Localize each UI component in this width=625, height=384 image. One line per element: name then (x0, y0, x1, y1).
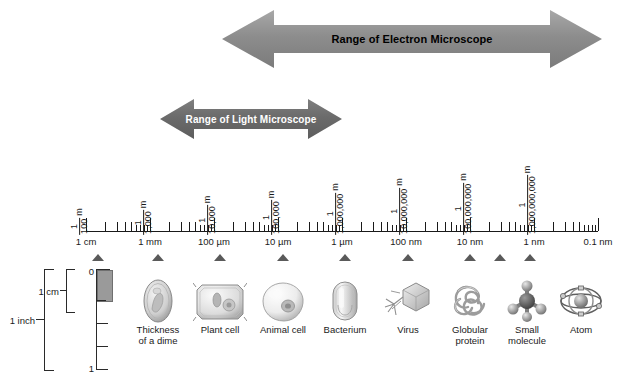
scale-minor-tick (451, 222, 452, 231)
fraction-numerator: 1 (326, 210, 335, 217)
scale-minor-tick (381, 222, 382, 231)
scale-minor-tick (323, 222, 324, 231)
scale-minor-tick (245, 222, 246, 231)
fraction-unit: m (330, 183, 340, 191)
scale-minor-tick (125, 222, 126, 231)
scale-minor-tick (105, 222, 106, 231)
scale-minor-tick (181, 222, 182, 231)
scale-minor-tick (565, 222, 566, 231)
specimen-plant-cell-label: Plant cell (188, 325, 252, 336)
specimen-position-marker (524, 254, 536, 261)
specimen-small-molecule-label: Small molecule (500, 325, 554, 346)
scale-minor-tick (189, 222, 190, 231)
fraction-numerator: 1 (262, 214, 271, 221)
fraction-numerator: 1 (70, 223, 79, 230)
scale-unit-label: 100 nm (390, 236, 422, 247)
scale-unit-label: 10 µm (265, 236, 292, 247)
specimen-virus-label: Virus (377, 325, 439, 336)
scale-minor-tick (373, 222, 374, 231)
scale-fraction-label: 11,000,000m (326, 183, 346, 235)
cm-bracket (66, 269, 75, 313)
scale-fraction-label: 11,000,000,000m (518, 166, 538, 235)
ruler-tick (96, 346, 108, 347)
scale-minor-tick (317, 222, 318, 231)
scale-minor-tick (489, 222, 490, 231)
range-arrow-light-label: Range of Light Microscope (160, 97, 342, 141)
fraction-unit: m (458, 173, 468, 181)
scale-minor-tick (195, 222, 196, 231)
specimen-position-marker (92, 254, 104, 261)
specimen-plant-cell: Plant cell (188, 277, 252, 336)
scale-minor-tick (425, 222, 426, 231)
scale-minor-tick (595, 225, 596, 231)
size-scale-diagram: Range of Electron Microscope Range of Li… (0, 0, 625, 384)
specimen-dime-label: Thickness of a dime (127, 325, 189, 346)
specimen-position-marker (277, 254, 289, 261)
scale-fraction-label: 11,000m (134, 201, 154, 235)
fraction-denominator: 1,000,000,000 (528, 175, 538, 235)
fraction-unit: m (202, 196, 212, 204)
scale-unit-label: 100 µm (198, 236, 230, 247)
scale-minor-tick (437, 222, 438, 231)
virus-illustration (377, 277, 439, 323)
specimen-position-marker (214, 254, 226, 261)
scale-minor-tick (117, 222, 118, 231)
scale-minor-tick (584, 225, 585, 231)
ruler-tick (96, 369, 108, 370)
globular-protein-illustration (442, 277, 498, 323)
bacterium-illustration (313, 277, 377, 323)
fraction-unit: m (74, 208, 84, 216)
scale-major-tick (598, 218, 599, 231)
scale-minor-tick (297, 222, 298, 231)
atom-illustration (554, 277, 608, 323)
range-arrow-electron: Range of Electron Microscope (222, 8, 602, 70)
fraction-denominator: 1,000,000 (336, 193, 346, 235)
specimen-position-marker (402, 254, 414, 261)
scale-minor-tick (253, 222, 254, 231)
scale-minor-tick (233, 222, 234, 231)
inch-bracket-label: 1 inch (10, 315, 35, 326)
scale-minor-tick (131, 222, 132, 231)
scale-unit-label: 1 mm (138, 236, 162, 247)
scale-fraction-label: 110,000,000m (390, 178, 410, 235)
fraction-denominator: 100 (80, 218, 90, 235)
fraction-unit: m (394, 178, 404, 186)
specimen-animal-cell-label: Animal cell (251, 325, 315, 336)
specimen-atom-label: Atom (554, 325, 608, 336)
range-arrow-light: Range of Light Microscope (160, 97, 342, 141)
specimen-globular-protein-label: Globular protein (442, 325, 498, 346)
scale-minor-tick (509, 222, 510, 231)
ruler-tick (96, 269, 110, 270)
specimen-position-marker (339, 254, 351, 261)
scale-minor-tick (361, 222, 362, 231)
ruler-tick (96, 300, 106, 301)
fraction-numerator: 1 (454, 205, 463, 212)
fraction-numerator: 1 (134, 219, 143, 226)
specimen-bacterium: Bacterium (313, 277, 377, 336)
ruler-bottom-number: 1 (89, 363, 94, 374)
specimen-bacterium-label: Bacterium (313, 325, 377, 336)
scale-fraction-label: 1100,000,000m (454, 173, 474, 235)
range-arrow-electron-label: Range of Electron Microscope (222, 8, 602, 70)
specimen-animal-cell: Animal cell (251, 277, 315, 336)
scale-minor-tick (588, 225, 589, 231)
specimen-virus: Virus (377, 277, 439, 336)
animal-cell-illustration (251, 277, 315, 323)
scale-minor-tick (259, 222, 260, 231)
specimen-globular-protein: Globular protein (442, 277, 498, 346)
specimen-small-molecule: Small molecule (500, 277, 554, 346)
scale-minor-tick (573, 222, 574, 231)
specimen-position-marker (152, 254, 164, 261)
scale-minor-tick (387, 222, 388, 231)
ruler-top-number: 0 (89, 266, 94, 277)
scale-fraction-label: 110,000m (198, 196, 218, 235)
fraction-denominator: 100,000,000 (464, 183, 474, 235)
small-molecule-illustration (500, 277, 554, 323)
fraction-numerator: 1 (198, 217, 207, 224)
specimen-position-marker (464, 254, 476, 261)
scale-minor-tick (592, 225, 593, 231)
fraction-denominator: 1,000 (144, 210, 154, 235)
cm-bracket-stem (60, 290, 67, 291)
scale-minor-tick (445, 222, 446, 231)
scale-unit-label: 1 cm (76, 236, 97, 247)
